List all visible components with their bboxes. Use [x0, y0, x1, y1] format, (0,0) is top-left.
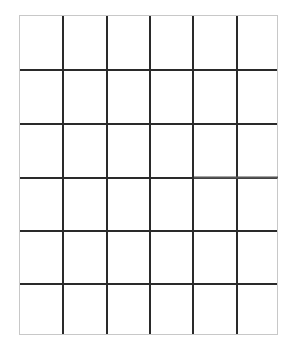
grid-table: [19, 15, 278, 335]
grid-vertical-line: [62, 16, 64, 334]
grid-horizontal-line: [20, 123, 277, 125]
grid-vertical-line: [192, 16, 194, 334]
grid-horizontal-line: [20, 283, 277, 285]
grid-horizontal-line: [20, 69, 277, 71]
grid-horizontal-line: [20, 230, 277, 232]
grid-vertical-line: [106, 16, 108, 334]
grid-vertical-line: [236, 16, 238, 334]
grid-vertical-line: [149, 16, 151, 334]
grid-line-smudge: [194, 176, 278, 179]
